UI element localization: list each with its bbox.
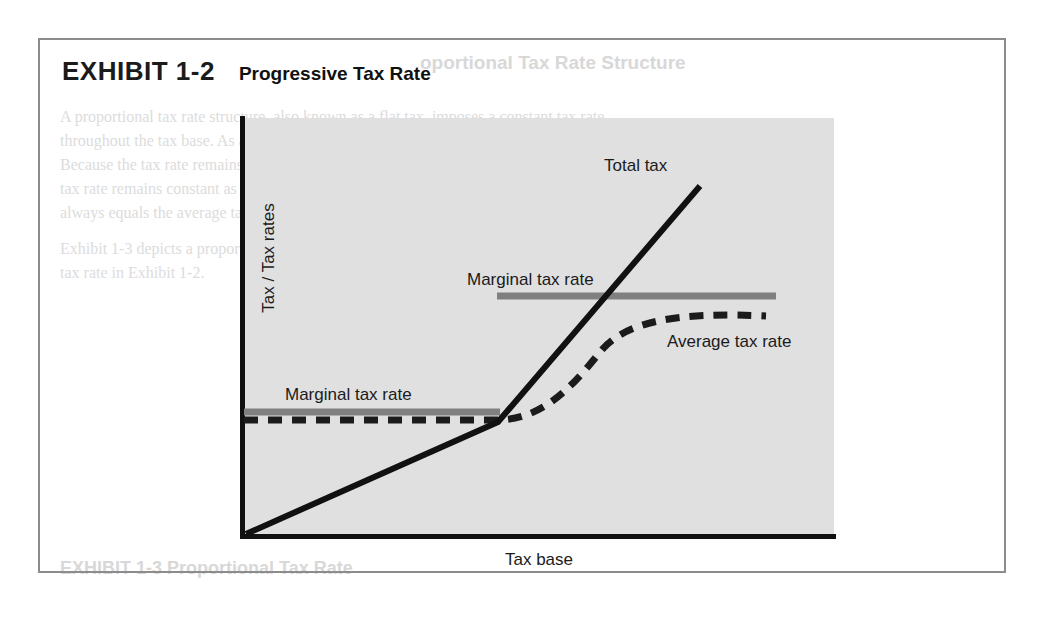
series-label-marginal-tax-rate-lower: Marginal tax rate	[285, 385, 412, 405]
series-label-total-tax: Total tax	[604, 156, 667, 176]
series-label-marginal-tax-rate-upper: Marginal tax rate	[467, 270, 594, 290]
series-layer	[0, 0, 1047, 644]
total-tax-line	[246, 186, 700, 534]
series-label-average-tax-rate: Average tax rate	[667, 332, 791, 352]
chart-progressive-tax-rate: Tax / Tax rates Tax base Total tax Margi…	[0, 0, 1047, 644]
